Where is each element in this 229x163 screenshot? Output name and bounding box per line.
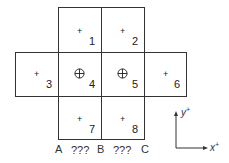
axes-indicator [0,0,229,163]
y-axis-label: y+ [181,106,190,118]
x-axis-label: x+ [210,141,219,153]
